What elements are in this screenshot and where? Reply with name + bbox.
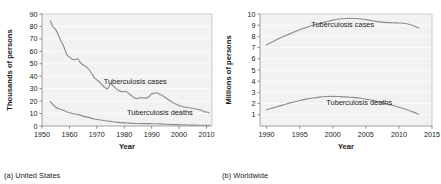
x-tick-label: 2005: [358, 130, 374, 139]
y-tick-label: 90: [30, 10, 38, 19]
x-tick-label: 2010: [391, 130, 407, 139]
y-tick-label: 40: [30, 72, 38, 81]
x-axis-ticks: 1950196019701980199020002010: [34, 126, 215, 139]
x-tick-label: 2010: [199, 130, 215, 139]
x-tick-label: 2000: [325, 130, 341, 139]
x-tick-label: 2015: [424, 130, 440, 139]
series-annotation: Tuberculosis cases: [311, 20, 374, 29]
y-axis-ticks: 0102030405060708090: [30, 10, 43, 131]
figure-container: 0102030405060708090195019601970198019902…: [0, 0, 441, 184]
x-tick-label: 1990: [259, 130, 275, 139]
y-tick-label: 4: [252, 77, 256, 86]
y-tick-label: 80: [30, 22, 38, 31]
x-tick-label: 1980: [116, 130, 132, 139]
panel-caption-a: (a) United States: [4, 171, 60, 180]
y-tick-label: 9: [252, 21, 256, 30]
y-tick-label: 8: [252, 32, 256, 41]
x-tick-label: 2000: [171, 130, 187, 139]
chart-svg-b: 12345678910199019952000200520102015YearM…: [220, 0, 441, 160]
x-tick-label: 1950: [34, 130, 50, 139]
y-tick-label: 10: [30, 109, 38, 118]
y-axis-ticks: 12345678910: [248, 10, 261, 120]
y-tick-label: 6: [252, 54, 256, 63]
x-tick-label: 1995: [292, 130, 308, 139]
x-tick-label: 1970: [89, 130, 105, 139]
y-tick-label: 50: [30, 59, 38, 68]
y-axis-title: Millions of persons: [224, 35, 233, 104]
y-tick-label: 1: [252, 110, 256, 119]
chart-panel-united-states: 0102030405060708090195019601970198019902…: [0, 0, 220, 184]
series-annotation: Tuberculosis cases: [104, 77, 167, 86]
chart-panel-worldwide: 12345678910199019952000200520102015YearM…: [220, 0, 441, 184]
y-tick-label: 60: [30, 47, 38, 56]
y-axis-title: Thousands of persons: [5, 29, 14, 110]
y-tick-label: 5: [252, 66, 256, 75]
x-axis-title: Year: [119, 142, 135, 151]
y-tick-label: 10: [248, 10, 256, 19]
series-annotation: Tuberculosis deaths: [127, 108, 193, 117]
x-axis-title: Year: [338, 142, 354, 151]
y-tick-label: 7: [252, 43, 256, 52]
series-annotation: Tuberculosis deaths: [326, 98, 392, 107]
y-tick-label: 20: [30, 97, 38, 106]
x-tick-label: 1960: [61, 130, 77, 139]
y-tick-label: 70: [30, 34, 38, 43]
x-tick-label: 1990: [144, 130, 160, 139]
chart-svg-a: 0102030405060708090195019601970198019902…: [0, 0, 220, 160]
y-tick-label: 30: [30, 84, 38, 93]
panel-caption-b: (b) Worldwide: [222, 171, 268, 180]
y-tick-label: 2: [252, 99, 256, 108]
y-tick-label: 3: [252, 88, 256, 97]
x-axis-ticks: 199019952000200520102015: [259, 126, 440, 139]
